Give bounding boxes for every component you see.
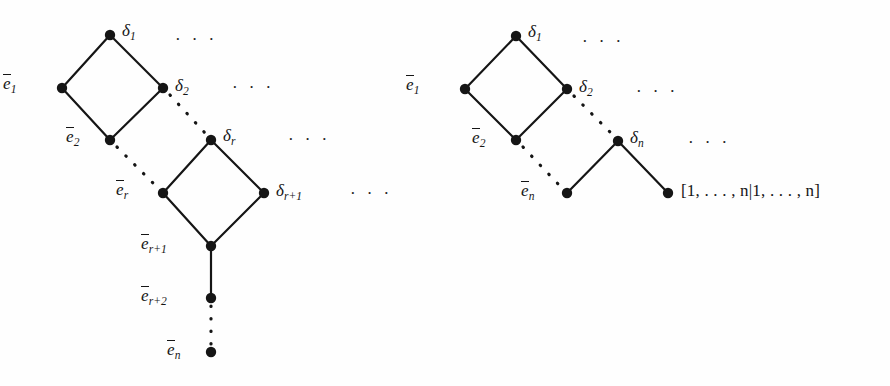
label-delta-2: δ2 bbox=[175, 77, 189, 97]
label-ebar-r-plus-1: er+1 bbox=[141, 235, 167, 255]
label-delta-r: δr bbox=[223, 127, 236, 147]
node-ebar-r bbox=[158, 188, 168, 198]
ellipsis-left-row-1: · · · bbox=[175, 31, 217, 48]
label-delta-1: δ1 bbox=[122, 22, 136, 42]
ellipsis-right-row-3: · · · bbox=[688, 134, 730, 151]
node-right-top-element bbox=[663, 188, 673, 198]
node-ebar-2 bbox=[105, 135, 115, 145]
node-delta-2 bbox=[158, 83, 168, 93]
label-ebar-r: er bbox=[116, 181, 128, 201]
label-right-ebar-n: en bbox=[521, 182, 535, 202]
right-dotted-edges bbox=[523, 96, 612, 186]
ellipsis-left-row-3: · · · bbox=[288, 131, 330, 148]
node-ebar-1 bbox=[57, 83, 67, 93]
left-diamond-top-edges bbox=[62, 35, 163, 140]
node-right-ebar-n bbox=[562, 188, 572, 198]
left-dotted-edges bbox=[117, 95, 211, 346]
node-ebar-r-plus-2 bbox=[206, 293, 216, 303]
node-delta-1 bbox=[105, 30, 115, 40]
label-right-ebar-1: e1 bbox=[406, 76, 420, 96]
node-right-delta-n bbox=[613, 136, 623, 146]
label-ebar-r-plus-2: er+2 bbox=[141, 287, 167, 307]
label-right-ebar-2: e2 bbox=[472, 129, 486, 149]
label-ebar-1: e1 bbox=[3, 75, 17, 95]
node-right-ebar-1 bbox=[460, 84, 470, 94]
right-diagram-graphics bbox=[460, 31, 673, 198]
label-right-delta-2: δ2 bbox=[579, 78, 593, 98]
ellipsis-right-row-2: · · · bbox=[636, 83, 678, 100]
ellipsis-left-row-2: · · · bbox=[232, 79, 274, 96]
node-right-delta-1 bbox=[511, 31, 521, 41]
right-diamond-edges bbox=[465, 36, 567, 140]
ellipsis-right-row-1: · · · bbox=[582, 33, 624, 50]
left-diamond-bottom-edges bbox=[163, 140, 264, 246]
node-delta-r bbox=[206, 135, 216, 145]
label-ebar-2: e2 bbox=[66, 128, 80, 148]
ellipsis-left-row-4: · · · bbox=[350, 185, 392, 202]
right-wedge-edges bbox=[567, 141, 668, 193]
node-delta-r-plus-1 bbox=[259, 188, 269, 198]
label-right-delta-1: δ1 bbox=[528, 23, 542, 43]
node-ebar-r-plus-1 bbox=[206, 241, 216, 251]
label-interval-top-element: [1, . . . , n|1, . . . , n] bbox=[681, 182, 820, 199]
node-right-delta-2 bbox=[562, 84, 572, 94]
label-right-delta-n: δn bbox=[630, 129, 644, 149]
node-right-ebar-2 bbox=[511, 135, 521, 145]
label-delta-r-plus-1: δr+1 bbox=[276, 182, 302, 202]
node-ebar-n bbox=[206, 347, 216, 357]
poset-diagram-figure: δ1 e1 δ2 e2 δr er δr+1 er+1 er+2 en · · … bbox=[0, 0, 890, 386]
label-ebar-n: en bbox=[167, 341, 181, 361]
